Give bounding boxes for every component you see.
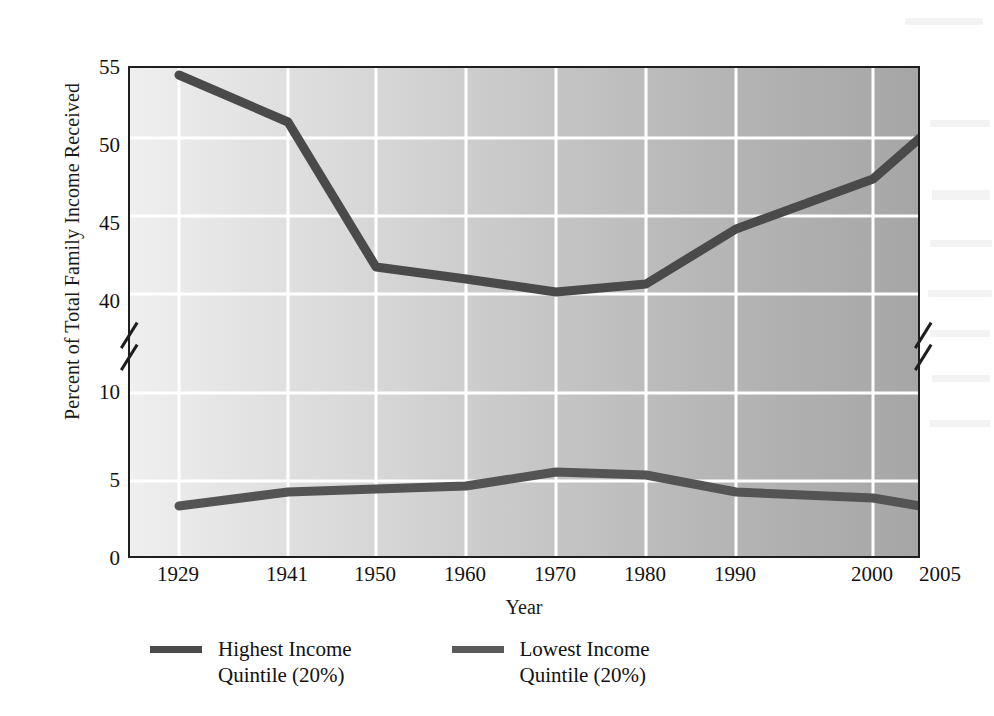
legend-label: Highest Income Quintile (20%) (218, 636, 352, 688)
page-bleed-artifact (928, 290, 992, 297)
x-tick-label: 1970 (510, 562, 600, 586)
y-tick-label: 40 (64, 291, 120, 312)
x-tick-label: 1990 (690, 562, 780, 586)
vertical-gridlines (179, 68, 873, 556)
page-bleed-artifact (930, 120, 990, 127)
page-bleed-artifact (905, 18, 983, 25)
x-tick-label: 2005 (895, 562, 985, 586)
x-tick-label: 1950 (330, 562, 420, 586)
y-tick-label: 50 (64, 135, 120, 156)
legend-item-highest-income-quintile: Highest Income Quintile (20%) (150, 636, 352, 688)
page-bleed-artifact (930, 240, 992, 247)
y-axis-break-left (112, 326, 146, 372)
legend-swatch-icon (150, 646, 202, 653)
y-tick-label: 45 (64, 213, 120, 234)
legend-swatch-icon (452, 646, 504, 653)
y-tick-label: 0 (64, 548, 120, 569)
y-tick-label: 55 (64, 57, 120, 78)
y-axis-break-right (906, 326, 940, 372)
y-tick-label: 10 (64, 382, 120, 403)
legend-item-lowest-income-quintile: Lowest Income Quintile (20%) (452, 636, 650, 688)
chart-canvas (130, 68, 918, 556)
x-axis-title: Year (128, 596, 920, 619)
page-bleed-artifact (930, 420, 990, 427)
page-bleed-artifact (932, 375, 990, 382)
x-tick-label: 1980 (600, 562, 690, 586)
series-line-lowest-income-quintile (179, 472, 918, 506)
series-line-highest-income-quintile (179, 75, 918, 292)
x-tick-label: 1929 (133, 562, 223, 586)
horizontal-gridlines (130, 138, 918, 481)
legend-label: Lowest Income Quintile (20%) (520, 636, 650, 688)
plot-area (128, 66, 920, 558)
page-bleed-artifact (932, 190, 990, 200)
income-distribution-chart: Percent of Total Family Income Received … (0, 0, 994, 716)
x-tick-label: 1960 (420, 562, 510, 586)
y-tick-label-group: 55 50 45 40 10 5 0 (56, 0, 120, 716)
chart-legend: Highest Income Quintile (20%) Lowest Inc… (150, 636, 650, 688)
x-tick-label: 1941 (242, 562, 332, 586)
y-tick-label: 5 (64, 470, 120, 491)
